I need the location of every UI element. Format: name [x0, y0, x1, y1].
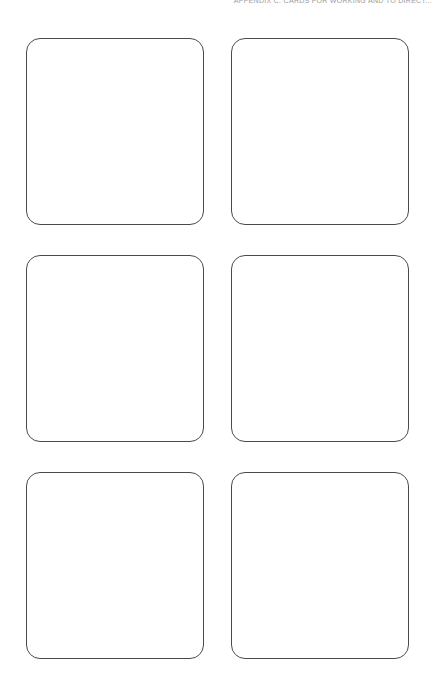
running-header: APPENDIX C: CARDS FOR WORKING AND TO DIR… — [172, 0, 432, 6]
blank-card-4 — [231, 255, 409, 442]
blank-card-1 — [26, 38, 204, 225]
blank-card-5 — [26, 472, 204, 659]
blank-card-6 — [231, 472, 409, 659]
blank-card-3 — [26, 255, 204, 442]
card-template-grid — [26, 38, 411, 659]
blank-card-2 — [231, 38, 409, 225]
